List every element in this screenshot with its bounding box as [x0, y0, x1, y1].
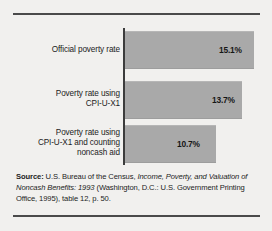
- figure-container: Official poverty rate 15.1% Poverty rate…: [0, 0, 272, 231]
- bar-value-label: 15.1%: [219, 45, 242, 55]
- bar-value-label: 10.7%: [177, 139, 200, 149]
- category-label-line: Poverty rate using: [8, 128, 120, 138]
- category-label-line: CPI-U-X1 and counting: [8, 138, 120, 148]
- category-label: Poverty rate using CPI-U-X1: [8, 89, 120, 109]
- category-label-line: Poverty rate using: [8, 89, 120, 99]
- source-note: Source: U.S. Bureau of the Census, Incom…: [16, 171, 259, 205]
- category-label-line: noncash aid: [8, 148, 120, 158]
- category-label: Poverty rate using CPI-U-X1 and counting…: [8, 128, 120, 159]
- bar-poverty-rate-cpi-u-x1-noncash: [125, 125, 216, 163]
- category-label-line: CPI-U-X1: [8, 99, 120, 109]
- source-text-part-1: U.S. Bureau of the Census,: [44, 172, 138, 181]
- category-label-line: Official poverty rate: [8, 45, 120, 55]
- source-label: Source:: [16, 172, 44, 181]
- bar-value-label: 13.7%: [212, 95, 235, 105]
- category-label: Official poverty rate: [8, 45, 120, 55]
